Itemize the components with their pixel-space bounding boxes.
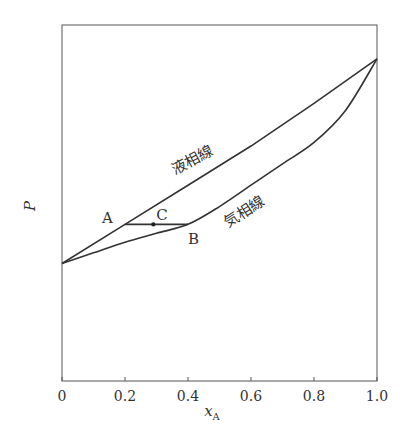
- vapor-line: [62, 59, 377, 264]
- plot-frame: [62, 25, 377, 381]
- x-axis-tick-labels: 00.20.40.60.81.0: [58, 388, 389, 404]
- liquid-line: [62, 59, 377, 264]
- x-tick-label: 0.2: [114, 388, 136, 404]
- vapor-line-label: 気相線: [220, 192, 268, 232]
- x-axis-label: xA: [204, 402, 220, 422]
- point-c-marker: [151, 222, 155, 226]
- x-tick-label: 0.8: [303, 388, 325, 404]
- point-b-label: B: [188, 230, 199, 248]
- x-tick-label: 0: [58, 388, 67, 404]
- liquid-line-label: 液相線: [168, 142, 216, 179]
- curves: [62, 59, 377, 264]
- x-tick-label: 0.4: [177, 388, 199, 404]
- annotations: ABC液相線気相線: [101, 142, 268, 249]
- x-axis-ticks: [62, 377, 377, 381]
- point-c-label: C: [156, 206, 167, 224]
- x-tick-label: 1.0: [366, 388, 388, 404]
- point-a-label: A: [101, 209, 113, 227]
- x-tick-label: 0.6: [240, 388, 262, 404]
- phase-diagram: 00.20.40.60.81.0 ABC液相線気相線 xA P: [0, 0, 412, 439]
- y-axis-label: P: [21, 200, 39, 212]
